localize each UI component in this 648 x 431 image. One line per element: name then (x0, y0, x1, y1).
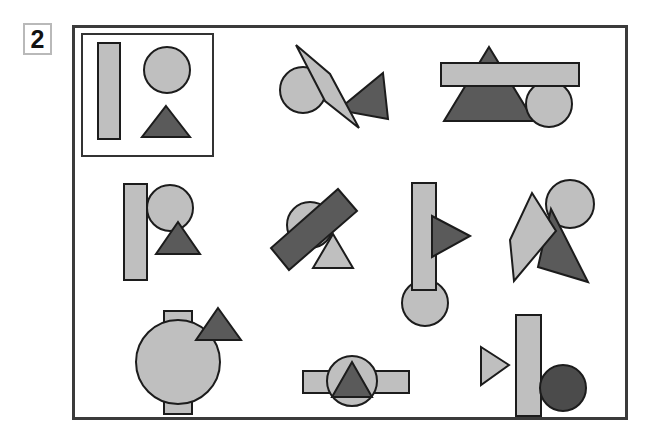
panel-number-badge: 2 (23, 23, 52, 55)
shape-panel-stage: 2 (0, 0, 648, 431)
legend-key-box (81, 33, 214, 157)
